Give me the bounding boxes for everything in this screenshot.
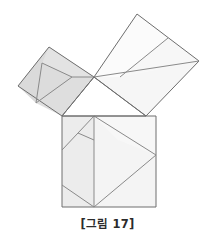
piece-bottom-left-strip bbox=[62, 116, 94, 207]
pythagoras-dissection-diagram bbox=[0, 0, 215, 244]
figure-caption: [그림 17] bbox=[0, 215, 215, 231]
figure-container: [그림 17] bbox=[0, 0, 215, 244]
